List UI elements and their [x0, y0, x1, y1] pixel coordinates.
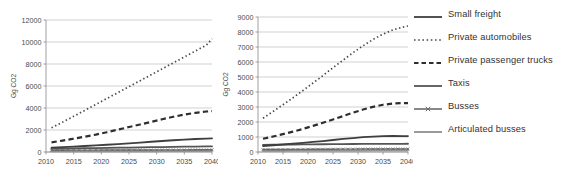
series-line — [52, 111, 212, 142]
y-tick-label: 12000 — [22, 16, 42, 25]
x-tick-label: 2035 — [176, 157, 192, 166]
legend-label-articulated-busses: Articulated busses — [448, 124, 526, 135]
x-tick-label: 2040 — [400, 157, 413, 166]
legend-swatch-articulated-busses — [413, 124, 443, 136]
y-tick-label: 3000 — [238, 103, 254, 112]
legend-line-icon — [413, 11, 443, 23]
y-tick-label: 4000 — [238, 88, 254, 97]
series-line — [263, 26, 408, 118]
y-tick-label: 0 — [38, 148, 42, 157]
y-tick-label: 0 — [250, 148, 254, 157]
chart-panel-left: 0200040006000800010000120002010201520202… — [0, 0, 218, 187]
chart-legend: Small freight Private automobiles Privat… — [413, 0, 577, 187]
series-line — [263, 103, 408, 139]
legend-line-icon — [413, 57, 443, 69]
x-tick-label: 2035 — [375, 157, 391, 166]
x-tick-label: 2030 — [149, 157, 165, 166]
left-chart-plot: 0200040006000800010000120002010201520202… — [0, 0, 218, 187]
x-tick-label: 2040 — [204, 157, 218, 166]
x-tick-label: 2015 — [275, 157, 291, 166]
y-tick-label: 1000 — [238, 133, 254, 142]
y-axis-label: Gg CO2 — [10, 74, 18, 99]
legend-label-busses: Busses — [448, 101, 479, 112]
legend-swatch-small-freight — [413, 9, 443, 21]
y-tick-label: 7000 — [238, 43, 254, 52]
x-tick-label: 2020 — [93, 157, 109, 166]
legend-item-private-passenger-trucks: Private passenger trucks — [413, 55, 577, 67]
legend-label-private-passenger-trucks: Private passenger trucks — [448, 55, 553, 66]
legend-item-busses: Busses — [413, 101, 577, 113]
right-chart-plot: 0100020003000400050006000700080009000201… — [218, 0, 413, 187]
y-tick-label: 4000 — [26, 104, 42, 113]
legend-swatch-private-automobiles — [413, 32, 443, 44]
y-tick-label: 6000 — [26, 82, 42, 91]
x-tick-label: 2010 — [38, 157, 54, 166]
x-tick-label: 2025 — [325, 157, 341, 166]
y-tick-label: 2000 — [238, 118, 254, 127]
x-tick-label: 2015 — [66, 157, 82, 166]
series-line — [263, 149, 408, 150]
x-tick-label: 2010 — [250, 157, 266, 166]
y-tick-label: 8000 — [238, 28, 254, 37]
x-tick-label: 2025 — [121, 157, 137, 166]
x-tick-label: 2030 — [350, 157, 366, 166]
y-tick-label: 5000 — [238, 73, 254, 82]
y-tick-label: 10000 — [22, 38, 42, 47]
legend-label-private-automobiles: Private automobiles — [448, 32, 532, 43]
legend-label-taxis: Taxis — [448, 78, 470, 89]
legend-line-icon — [413, 126, 443, 138]
legend-swatch-private-passenger-trucks — [413, 55, 443, 67]
legend-label-small-freight: Small freight — [448, 9, 501, 20]
legend-line-icon — [413, 103, 443, 115]
y-axis-label: Gg CO2 — [222, 72, 230, 97]
legend-item-articulated-busses: Articulated busses — [413, 124, 577, 136]
legend-item-taxis: Taxis — [413, 78, 577, 90]
y-tick-label: 6000 — [238, 58, 254, 67]
legend-line-icon — [413, 34, 443, 46]
y-tick-label: 8000 — [26, 60, 42, 69]
y-tick-label: 9000 — [238, 13, 254, 22]
legend-line-icon — [413, 80, 443, 92]
legend-swatch-busses — [413, 101, 443, 113]
legend-item-small-freight: Small freight — [413, 9, 577, 21]
figure-container: 0200040006000800010000120002010201520202… — [0, 0, 580, 187]
legend-swatch-taxis — [413, 78, 443, 90]
x-tick-label: 2020 — [300, 157, 316, 166]
legend-item-private-automobiles: Private automobiles — [413, 32, 577, 44]
chart-panel-right: 0100020003000400050006000700080009000201… — [218, 0, 413, 187]
y-tick-label: 2000 — [26, 126, 42, 135]
